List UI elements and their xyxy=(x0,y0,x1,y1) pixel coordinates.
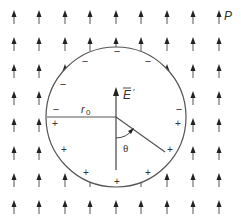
plus-charge: + xyxy=(52,118,58,129)
field-arrow-icon xyxy=(114,10,119,24)
field-arrow-icon xyxy=(37,173,42,187)
field-arrow-icon xyxy=(37,37,42,51)
field-arrow-icon xyxy=(217,37,222,51)
field-arrow-icon xyxy=(37,10,42,24)
field-arrow-icon xyxy=(12,200,17,214)
field-arrow-icon xyxy=(88,37,93,51)
field-arrow-icon xyxy=(217,173,222,187)
field-arrow-icon xyxy=(191,200,196,214)
minus-charge: − xyxy=(60,78,66,90)
field-arrow-icon xyxy=(114,200,119,214)
field-arrow-icon xyxy=(217,118,222,132)
field-arrow-icon xyxy=(217,91,222,105)
field-arrow-icon xyxy=(217,64,222,78)
field-arrow-icon xyxy=(12,173,17,187)
field-arrow-icon xyxy=(139,10,144,24)
field-arrow-icon xyxy=(88,10,93,24)
minus-charge: − xyxy=(82,55,88,67)
field-arrow-icon xyxy=(12,64,17,78)
polarization-label: P xyxy=(224,9,232,23)
field-arrow-icon xyxy=(37,146,42,160)
minus-charge: − xyxy=(145,55,151,67)
field-arrow-icon xyxy=(191,118,196,132)
plus-charge: + xyxy=(61,144,67,155)
field-arrow-icon xyxy=(139,37,144,51)
field-arrow-icon xyxy=(63,200,68,214)
field-arrow-icon xyxy=(63,37,68,51)
field-arrow-icon xyxy=(12,118,17,132)
e-field-label: E xyxy=(123,88,132,102)
field-arrow-icon xyxy=(217,200,222,214)
field-arrow-icon xyxy=(63,10,68,24)
field-arrow-icon xyxy=(37,200,42,214)
field-arrow-icon xyxy=(217,146,222,160)
field-arrow-icon xyxy=(191,173,196,187)
plus-charge: + xyxy=(167,144,173,155)
minus-charge: − xyxy=(176,103,182,115)
field-arrow-icon xyxy=(63,173,68,187)
field-arrow-icon xyxy=(191,146,196,160)
diagram-canvas: − − − − − − + + + + + + + P E ′ r 0 θ xyxy=(0,0,241,222)
field-arrow-icon xyxy=(37,118,42,132)
plus-charge: + xyxy=(175,118,181,129)
field-arrow-icon xyxy=(12,37,17,51)
angle-theta-label: θ xyxy=(123,142,128,154)
plus-charge: + xyxy=(114,176,120,187)
field-arrow-icon xyxy=(37,91,42,105)
minus-charge: − xyxy=(53,103,59,115)
field-arrow-icon xyxy=(217,10,222,24)
field-arrow-icon xyxy=(12,10,17,24)
field-arrow-icon xyxy=(139,200,144,214)
field-arrow-icon xyxy=(191,37,196,51)
field-arrow-icon xyxy=(191,10,196,24)
radius-subscript: 0 xyxy=(86,108,91,117)
field-arrow-icon xyxy=(88,200,93,214)
field-arrow-icon xyxy=(165,200,170,214)
field-arrow-icon xyxy=(37,64,42,78)
field-arrow-icon xyxy=(12,91,17,105)
field-arrow-icon xyxy=(191,64,196,78)
field-arrow-icon xyxy=(165,10,170,24)
plus-charge: + xyxy=(145,167,151,178)
minus-charge: − xyxy=(114,45,120,57)
field-arrow-icon xyxy=(165,173,170,187)
field-arrow-icon xyxy=(191,91,196,105)
plus-charge: + xyxy=(83,167,89,178)
field-arrow-icon xyxy=(165,37,170,51)
field-arrow-icon xyxy=(12,146,17,160)
